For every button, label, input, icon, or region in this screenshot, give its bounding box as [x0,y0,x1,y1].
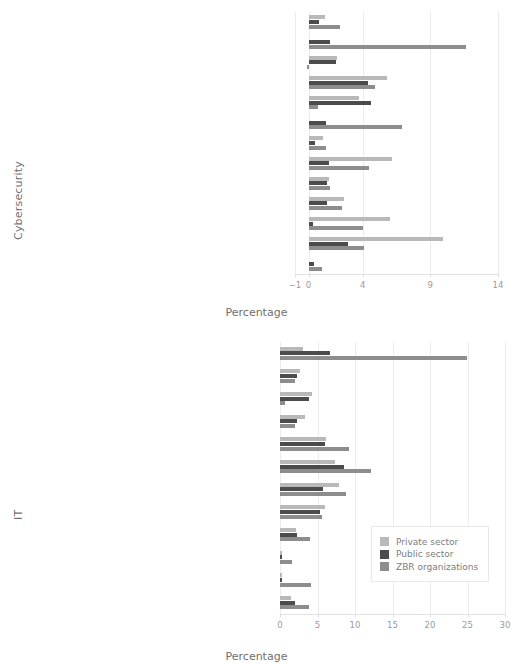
gridline [318,342,319,614]
bar [309,101,371,105]
gridline [355,342,356,614]
bar [280,374,297,378]
bar [309,186,331,190]
x-axis-line [295,274,498,275]
gridline [363,12,364,274]
bar [280,483,339,487]
gridline [430,12,431,274]
bar [280,351,330,355]
bar [309,76,387,80]
bar [309,56,337,60]
bar [307,65,308,69]
chart-panel-cybersecurity: Cybersecurity Cyber Defense Forensics An… [0,0,513,330]
bar [309,146,327,150]
y-axis-title-bottom: IT [12,480,25,520]
bar [280,505,325,509]
bar [280,573,282,577]
bar [280,537,310,541]
bar [280,379,295,383]
bar [309,45,466,49]
y-axis-title-top: Cybersecurity [12,70,25,240]
x-axis-tick-mark [498,274,499,277]
x-axis-tick-mark [430,614,431,617]
bar [280,460,335,464]
figure-root: Cybersecurity Cyber Defense Forensics An… [0,0,513,664]
x-axis-tick-mark [309,274,310,277]
legend-swatch-icon [380,537,389,546]
bar [309,197,344,201]
bar [309,105,318,109]
x-axis-tick-mark [505,614,506,617]
legend-item[interactable]: Public sector [380,549,478,559]
bar [280,560,292,564]
bar [309,125,402,129]
x-axis-tick-mark [468,614,469,617]
x-axis-title-bottom: Percentage [0,650,513,663]
bar [309,217,390,221]
x-axis-tick-label: 25 [462,620,473,630]
bar [280,492,346,496]
bar [309,237,443,241]
x-axis-title-top: Percentage [0,306,513,319]
chart-panel-it: IT Technical Support Specialist (411)Dat… [0,330,513,664]
bar [309,121,327,125]
legend-label: Private sector [396,537,458,547]
bar [280,528,296,532]
bar [309,242,348,246]
x-axis-tick-label: 10 [350,620,361,630]
bar [280,437,326,441]
bar [280,465,344,469]
x-axis-tick-label: 9 [428,280,433,290]
x-axis-tick-label: 14 [493,280,504,290]
bar [309,96,359,100]
bar [280,419,297,423]
x-axis-tick-mark [363,274,364,277]
x-axis-tick-label: 20 [425,620,436,630]
bar [309,20,320,24]
bar [309,246,364,250]
bar [280,515,322,519]
x-axis-tick-mark [280,614,281,617]
x-axis-tick-label: 0 [306,280,311,290]
bar [280,469,371,473]
bar [309,161,329,165]
bar [280,447,349,451]
bar [309,136,324,140]
x-axis-tick-mark [430,274,431,277]
legend-swatch-icon [380,562,389,571]
bar [309,262,314,266]
bar [280,424,295,428]
bar [280,442,325,446]
legend-item[interactable]: ZBR organizations [380,562,478,572]
x-axis-tick-mark [318,614,319,617]
bar [280,533,297,537]
bar [280,601,295,605]
legend: Private sectorPublic sectorZBR organizat… [371,526,489,582]
bar [280,392,312,396]
bar [280,401,285,405]
gridline [498,12,499,274]
bar [309,85,375,89]
gridline [505,342,506,614]
x-axis-tick-label: −1 [289,280,302,290]
x-axis-tick-label: 15 [387,620,398,630]
bar [309,222,313,226]
legend-item[interactable]: Private sector [380,537,478,547]
bar [280,510,320,514]
bar [280,397,309,401]
bar [280,356,467,360]
bar [280,596,291,600]
bar [280,551,282,555]
x-axis-tick-label: 0 [277,620,282,630]
bar [280,578,282,582]
bar [280,369,300,373]
gridline [295,12,296,274]
bar [309,177,329,181]
legend-label: Public sector [396,549,453,559]
bar [309,206,343,210]
x-axis-tick-label: 30 [500,620,511,630]
x-axis-tick-mark [393,614,394,617]
bar [309,25,340,29]
bar [309,226,363,230]
bar [309,141,316,145]
